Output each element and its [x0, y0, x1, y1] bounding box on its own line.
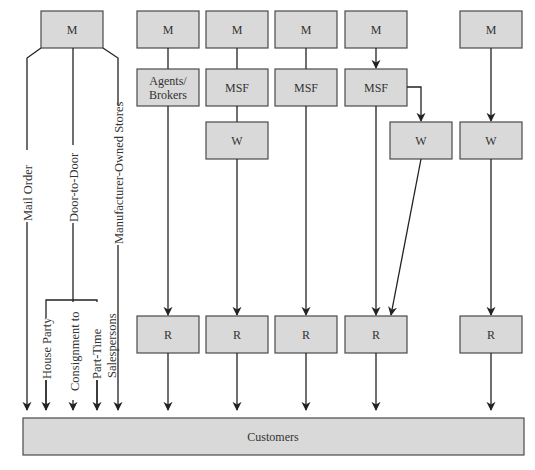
mail-order-label: Mail Order: [21, 164, 35, 221]
customers: Customers: [23, 418, 524, 455]
consignment-label-line2: Part-Time: [90, 328, 104, 379]
retailer-label-2: R: [164, 328, 172, 342]
channel-msf: M MSF R: [275, 11, 337, 410]
channel-msf-wholesaler: M MSF W R: [206, 11, 268, 410]
retailer-label-3: R: [233, 328, 241, 342]
retailer-label-4: R: [302, 328, 310, 342]
channel-direct: M Mail Order Door-to-Door Manufacturer-O…: [20, 11, 126, 410]
manufacturer-label-1: M: [67, 23, 78, 37]
door-to-door-label: Door-to-Door: [67, 152, 81, 222]
agents-brokers-label-line1: Agents/: [149, 74, 187, 88]
channel-agents-brokers: M Agents/ Brokers R: [137, 11, 199, 410]
house-party-label: House Party: [40, 317, 54, 379]
manufacturer-label-4: M: [301, 23, 312, 37]
wholesaler-to-retailer-arrow: [391, 159, 421, 315]
mail-order-arrow: [27, 48, 41, 410]
manufacturer-label-2: M: [163, 23, 174, 37]
agents-brokers-label-line2: Brokers: [149, 88, 187, 102]
msf-to-wholesaler-arrow: [407, 87, 421, 121]
customers-label: Customers: [247, 430, 299, 444]
wholesaler-label-6: W: [485, 134, 497, 148]
retailer-label-5: R: [372, 328, 380, 342]
wholesaler-label-3: W: [231, 134, 243, 148]
manufacturer-owned-stores-label: Manufacturer-Owned Stores: [112, 101, 126, 244]
msf-label-5: MSF: [364, 81, 388, 95]
msf-label-3: MSF: [225, 81, 249, 95]
consignment-label-line3: Salespersons: [105, 313, 119, 378]
consignment-label-line1: Consignment to: [68, 311, 82, 391]
retailer-label-6: R: [487, 328, 495, 342]
manufacturer-label-3: M: [232, 23, 243, 37]
wholesaler-label-5: W: [415, 134, 427, 148]
msf-label-4: MSF: [294, 81, 318, 95]
manufacturer-label-5: M: [371, 23, 382, 37]
manufacturer-label-6: M: [486, 23, 497, 37]
channel-wholesaler: M W R: [460, 11, 522, 410]
channel-msf-mixed: M MSF W R: [345, 11, 452, 410]
distribution-channels-diagram: M Mail Order Door-to-Door Manufacturer-O…: [0, 0, 535, 470]
